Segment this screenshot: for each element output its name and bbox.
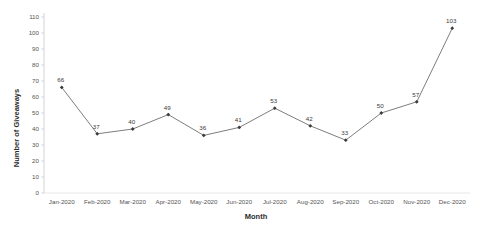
data-point-marker xyxy=(131,127,135,131)
data-point-marker xyxy=(450,26,454,30)
y-tick-label: 10 xyxy=(32,173,39,180)
y-tick-label: 100 xyxy=(29,29,40,36)
x-tick-label: Nov-2020 xyxy=(403,198,430,205)
data-point-marker xyxy=(415,100,419,104)
data-point-marker xyxy=(273,106,277,110)
y-tick-label: 60 xyxy=(32,93,39,100)
series-giveaways xyxy=(60,26,454,142)
data-point-label: 53 xyxy=(270,97,277,104)
data-point-label: 66 xyxy=(57,76,64,83)
y-tick-label: 50 xyxy=(32,109,39,116)
x-axis-title: Month xyxy=(245,212,268,221)
x-tick-label: Sep-2020 xyxy=(332,198,359,205)
data-point-label: 40 xyxy=(128,118,135,125)
series-line-path xyxy=(62,28,453,140)
y-tick-label: 110 xyxy=(29,13,39,20)
x-tick-label: Apr-2020 xyxy=(156,198,182,205)
data-point-label: 50 xyxy=(377,102,384,109)
x-tick-label: Jun-2020 xyxy=(226,198,252,205)
data-point-label: 103 xyxy=(446,17,457,24)
x-tick-label: Jan-2020 xyxy=(49,198,75,205)
y-tick-label: 0 xyxy=(36,189,40,196)
y-axis-title: Number of Giveaways xyxy=(12,89,21,167)
data-point-label: 42 xyxy=(306,115,313,122)
x-tick-label: Oct-2020 xyxy=(369,198,395,205)
data-point-marker xyxy=(308,124,312,128)
x-tick-label: May-2020 xyxy=(190,198,218,205)
data-point-label: 57 xyxy=(412,91,419,98)
data-point-label: 33 xyxy=(341,129,348,136)
y-tick-label: 30 xyxy=(32,141,39,148)
x-tick-label: Aug-2020 xyxy=(297,198,324,205)
x-tick-label: Jul-2020 xyxy=(263,198,287,205)
x-tick-label: Feb-2020 xyxy=(84,198,111,205)
y-tick-label: 20 xyxy=(32,157,39,164)
data-point-marker xyxy=(237,126,241,130)
y-tick-label: 70 xyxy=(32,77,39,84)
y-axis: 0102030405060708090100110 xyxy=(29,13,470,196)
x-axis: Jan-2020Feb-2020Mar-2020Apr-2020May-2020… xyxy=(49,198,466,205)
y-tick-label: 80 xyxy=(32,61,39,68)
data-point-label: 41 xyxy=(235,116,242,123)
x-tick-label: Dec-2020 xyxy=(439,198,466,205)
x-tick-label: Mar-2020 xyxy=(120,198,147,205)
data-point-label: 36 xyxy=(199,124,206,131)
y-tick-label: 40 xyxy=(32,125,39,132)
data-labels: 6637404936415342335057103 xyxy=(57,17,457,136)
line-chart-figure: 0102030405060708090100110 Jan-2020Feb-20… xyxy=(0,0,480,228)
data-point-marker xyxy=(166,113,170,117)
data-point-label: 37 xyxy=(93,123,100,130)
data-point-marker xyxy=(202,134,206,138)
chart-canvas: 0102030405060708090100110 Jan-2020Feb-20… xyxy=(0,0,480,228)
data-point-label: 49 xyxy=(164,104,171,111)
y-tick-label: 90 xyxy=(32,45,39,52)
